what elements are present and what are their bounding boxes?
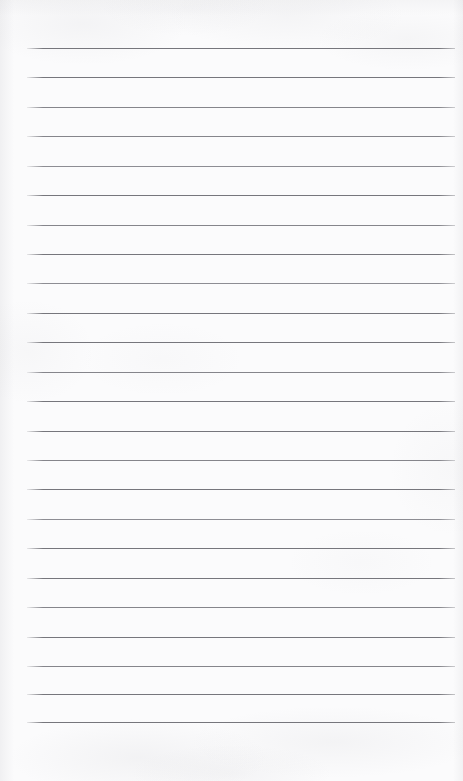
rule-line — [27, 166, 455, 167]
rule-line — [27, 342, 455, 343]
rule-line — [27, 136, 455, 137]
rule-line — [27, 548, 455, 549]
rule-line — [27, 637, 455, 638]
rule-line — [27, 195, 455, 196]
ruled-lines-layer — [0, 0, 463, 781]
rule-line — [27, 722, 455, 723]
rule-line — [27, 313, 455, 314]
rule-line — [27, 489, 455, 490]
rule-line — [27, 431, 455, 432]
rule-line — [27, 283, 455, 284]
rule-line — [27, 666, 455, 667]
scanned-page — [0, 0, 463, 781]
rule-line — [27, 578, 455, 579]
rule-line — [27, 48, 455, 49]
rule-line — [27, 401, 455, 402]
rule-line — [27, 519, 455, 520]
rule-line — [27, 460, 455, 461]
rule-line — [27, 107, 455, 108]
rule-line — [27, 254, 455, 255]
rule-line — [27, 372, 455, 373]
rule-line — [27, 694, 455, 695]
rule-line — [27, 77, 455, 78]
rule-line — [27, 225, 455, 226]
rule-line — [27, 607, 455, 608]
